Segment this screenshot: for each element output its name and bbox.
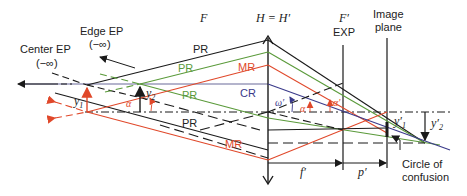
- label-f-prime: f′: [300, 165, 306, 179]
- label-pr-black-bottom: PR: [182, 117, 197, 129]
- label-y2-prime: y′2: [430, 116, 443, 132]
- mr-red-image-ray-bottom: [268, 112, 387, 160]
- pr-black-top-dash: [52, 73, 87, 85]
- pr-black-dash-3: [150, 100, 260, 130]
- omega-arc: [290, 97, 293, 112]
- label-image-plane-2: plane: [375, 21, 402, 33]
- pr-black-dash-5: [160, 125, 268, 158]
- label-cr: CR: [240, 87, 256, 99]
- label-alpha-img: α: [300, 103, 306, 114]
- label-image-plane-1: Image: [373, 8, 404, 20]
- label-p-prime: p′: [357, 165, 367, 179]
- optical-diagram: Center EP (−∞) Edge EP (−∞) F H = H′ F′ …: [0, 0, 467, 196]
- label-pr-green-top: PR: [178, 62, 193, 74]
- cr-image-ray: [268, 84, 450, 150]
- label-y1-prime: y′1: [393, 114, 406, 130]
- pr-black-dash-4: [200, 112, 268, 130]
- label-focal-front: F: [199, 11, 208, 25]
- label-mr-red-top: MR: [238, 61, 255, 73]
- label-focal-back: F′: [338, 11, 349, 25]
- label-alpha-obj: α: [126, 98, 132, 109]
- label-coc-2: confusion: [402, 171, 449, 183]
- label-pr-black-top: PR: [193, 43, 208, 55]
- diagram-canvas: Center EP (−∞) Edge EP (−∞) F H = H′ F′ …: [0, 0, 467, 196]
- label-y2: y2: [145, 86, 155, 102]
- edge-ep-arrow: [100, 57, 135, 68]
- label-exit-pupil: EXP: [333, 26, 355, 38]
- label-edge-ep-inf: (−∞): [89, 38, 111, 50]
- label-alpha-prime: α′: [333, 97, 341, 108]
- label-center-ep: Center EP: [20, 43, 71, 55]
- label-principal-planes: H = H′: [255, 11, 290, 25]
- pr-black-lower-image: [268, 128, 387, 130]
- mr-red-image-ray-top: [268, 65, 387, 133]
- label-coc-1: Circle of: [402, 158, 443, 170]
- label-omega-prime: ω′: [275, 97, 285, 108]
- label-mr-red-bottom: MR: [225, 138, 242, 150]
- pr-green-dash-b: [105, 84, 140, 92]
- label-center-ep-inf: (−∞): [36, 57, 58, 69]
- label-edge-ep: Edge EP: [80, 25, 123, 37]
- label-y1: y1: [73, 94, 83, 110]
- mr-red-dash-b: [55, 112, 87, 118]
- pr-green-image-ray-2: [268, 118, 440, 145]
- mr-red-bottom-ray: [87, 112, 268, 160]
- pr-green-dash-a: [100, 74, 140, 84]
- exp-dash-lower: [268, 112, 343, 130]
- label-pr-green-mid: PR: [182, 89, 197, 101]
